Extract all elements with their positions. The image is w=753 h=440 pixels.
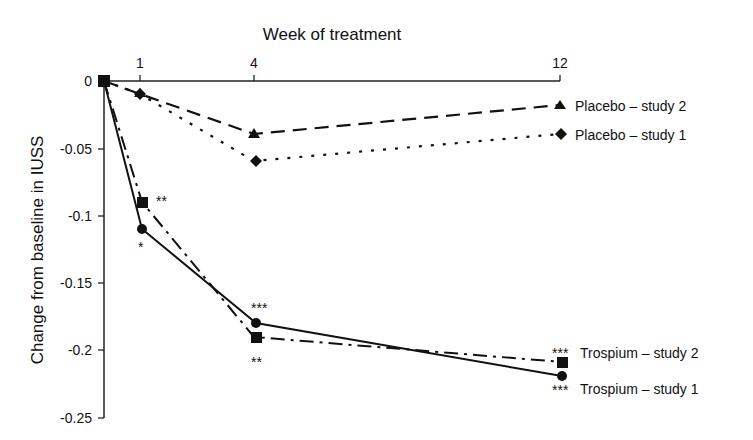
y-tick-label-02: -0.2 bbox=[68, 342, 92, 358]
sig-annotation: ** bbox=[156, 193, 167, 209]
series-placebo-study-2-line bbox=[104, 81, 560, 134]
legend-placebo-study-2: Placebo – study 2 bbox=[575, 98, 687, 114]
y-tick-label-025: -0.25 bbox=[60, 410, 92, 426]
x-tick-label-4: 4 bbox=[250, 55, 258, 71]
y-tick-label-015: -0.15 bbox=[60, 275, 92, 291]
sig-annotation: *** bbox=[552, 345, 569, 361]
legend-trospium-study-2: Trospium – study 2 bbox=[580, 345, 699, 361]
x-tick-label-12: 12 bbox=[552, 55, 568, 71]
square-marker bbox=[137, 197, 148, 208]
sig-annotation: * bbox=[138, 239, 144, 255]
diamond-marker bbox=[134, 88, 146, 100]
series-placebo-study-1-line bbox=[104, 81, 560, 161]
y-tick-label-005: -0.05 bbox=[60, 141, 92, 157]
y-ticks bbox=[98, 149, 104, 418]
baseline-square-marker bbox=[98, 75, 110, 87]
y-axis-title: Change from baseline in IUSS bbox=[28, 136, 47, 365]
diamond-marker bbox=[555, 128, 567, 140]
sig-annotation: *** bbox=[251, 300, 268, 316]
y-tick-label-01: -0.1 bbox=[68, 208, 92, 224]
square-marker bbox=[251, 332, 262, 343]
circle-marker bbox=[557, 371, 567, 381]
circle-marker bbox=[137, 224, 147, 234]
circle-marker bbox=[251, 318, 261, 328]
series-trospium-study-2-line bbox=[104, 81, 562, 362]
x-tick-label-1: 1 bbox=[136, 55, 144, 71]
sig-annotation: *** bbox=[552, 382, 569, 398]
sig-annotation: ** bbox=[251, 354, 262, 370]
diamond-marker bbox=[250, 155, 262, 167]
legend-trospium-study-1: Trospium – study 1 bbox=[580, 381, 699, 397]
line-chart: Week of treatment 1 4 12 0 -0.05 -0.1 -0… bbox=[0, 0, 753, 440]
x-axis-title: Week of treatment bbox=[263, 25, 402, 44]
y-tick-label-0: 0 bbox=[84, 73, 92, 89]
markers bbox=[98, 75, 568, 381]
series-trospium-study-1-line bbox=[104, 81, 562, 376]
legend-placebo-study-1: Placebo – study 1 bbox=[575, 127, 687, 143]
